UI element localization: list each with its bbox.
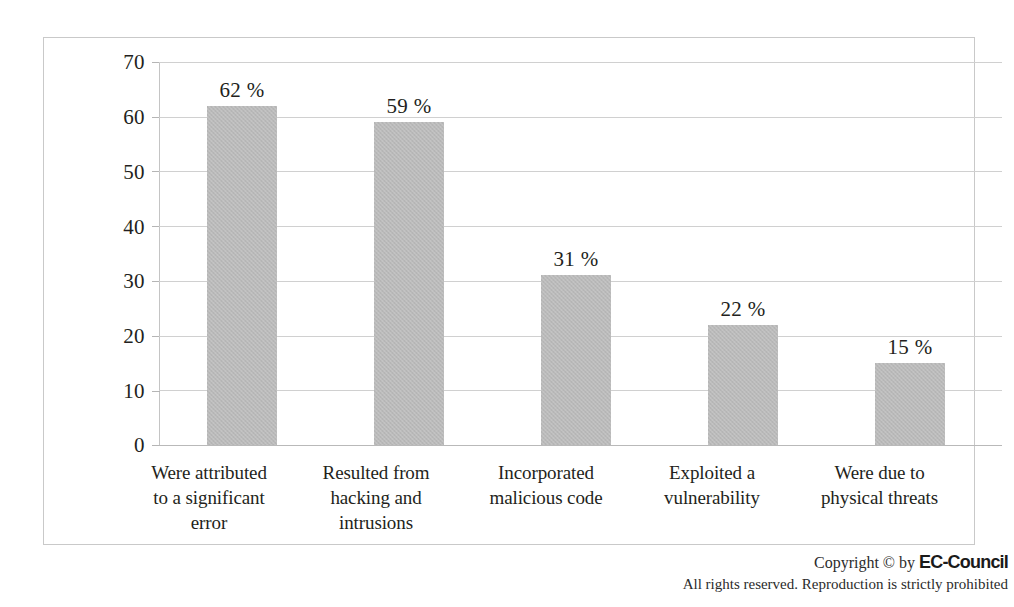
- chart-frame: 70 60 50 40 30 20 10 0 62 % 59 % 31 % 22…: [43, 37, 975, 545]
- y-tick-label-0: 0: [85, 435, 145, 456]
- gridline-40: [159, 226, 1002, 227]
- y-tick-label-50: 50: [85, 162, 145, 183]
- copyright-prefix: Copyright © by: [814, 554, 919, 571]
- gridline-60: [159, 117, 1002, 118]
- bar-value-label-3: 31 %: [521, 249, 631, 270]
- rights-reserved-line: All rights reserved. Reproduction is str…: [408, 574, 1008, 594]
- y-tick-label-70: 70: [85, 52, 145, 73]
- y-tick-label-10: 10: [85, 381, 145, 402]
- footer: Copyright © by EC-Council All rights res…: [408, 552, 1008, 594]
- bar-exploited-a-vulnerability: [708, 325, 778, 445]
- gridline-70: [159, 62, 1002, 63]
- y-tick-label-20: 20: [85, 326, 145, 347]
- y-tick-label-60: 60: [85, 107, 145, 128]
- bar-incorporated-malicious-code: [541, 275, 611, 445]
- bar-resulted-from-hacking-and-intrusions: [374, 122, 444, 445]
- ec-council-brand: EC-Council: [919, 552, 1008, 572]
- category-label-2: Resulted from hacking and intrusions: [291, 460, 461, 535]
- category-label-4: Exploited a vulnerability: [627, 460, 797, 510]
- category-label-3: Incorporated malicious code: [456, 460, 636, 510]
- bar-value-label-1: 62 %: [187, 80, 297, 101]
- bar-were-due-to-physical-threats: [875, 363, 945, 445]
- bar-value-label-4: 22 %: [688, 299, 798, 320]
- gridline-50: [159, 171, 1002, 172]
- category-label-1: Were attributed to a significant error: [124, 460, 294, 535]
- category-label-5: Were due to physical threats: [787, 460, 972, 510]
- plot-area: 62 % 59 % 31 % 22 % 15 %: [159, 62, 1002, 445]
- y-tick-label-40: 40: [85, 217, 145, 238]
- y-tick-label-30: 30: [85, 271, 145, 292]
- copyright-line: Copyright © by EC-Council: [408, 552, 1008, 573]
- bar-value-label-2: 59 %: [354, 96, 464, 117]
- bar-value-label-5: 15 %: [855, 337, 965, 358]
- gridline-baseline-0: [159, 445, 1002, 446]
- bar-were-attributed-to-a-significant-error: [207, 106, 277, 445]
